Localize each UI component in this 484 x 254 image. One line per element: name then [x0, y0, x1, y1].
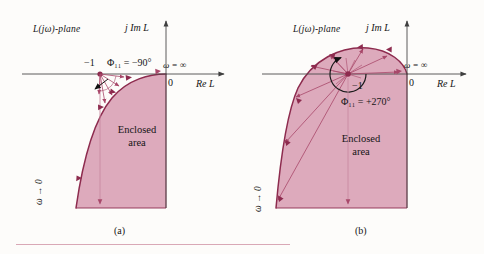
- phase-label-a: Φ₁₁ = −90°: [107, 57, 152, 68]
- imag-axis-label-a: j Im L: [125, 22, 149, 33]
- origin-label-a: 0: [168, 77, 173, 88]
- phase-label-b: Φ₁₁ = +270°: [341, 96, 391, 107]
- caption-b: (b): [355, 225, 367, 236]
- enclosed-area-b: [276, 48, 407, 208]
- critical-point-b: [345, 71, 351, 77]
- omega-zero-label-a: ω → 0: [34, 179, 44, 205]
- enclosed-area-label-b-line2: area: [330, 146, 392, 158]
- enclosed-area-label-a-line2: area: [106, 137, 168, 149]
- omega-infinity-label-b: ω = ∞: [404, 60, 427, 70]
- critical-point-label-a: −1: [84, 57, 95, 68]
- real-axis-label-a: Re L: [196, 78, 215, 89]
- nyquist-figure: [0, 0, 484, 254]
- plane-label-a: L(jω)-plane: [33, 24, 80, 34]
- real-axis-label-b: Re L: [437, 78, 456, 89]
- imag-axis-label-b: j Im L: [366, 22, 390, 33]
- critical-point-label-b: −1: [352, 80, 363, 91]
- panel-b: [262, 21, 466, 208]
- bottom-separator-rule: [16, 244, 290, 245]
- enclosed-area-label-b-line1: Enclosed: [330, 133, 392, 145]
- enclosed-area-label-a-line1: Enclosed: [106, 124, 168, 136]
- plane-label-b: L(jω)-plane: [293, 24, 340, 34]
- origin-label-b: 0: [409, 77, 414, 88]
- omega-infinity-label-a: ω = ∞: [163, 60, 186, 70]
- panel-a: [22, 21, 224, 208]
- omega-zero-label-b: ω → 0: [253, 186, 263, 212]
- caption-a: (a): [114, 225, 125, 236]
